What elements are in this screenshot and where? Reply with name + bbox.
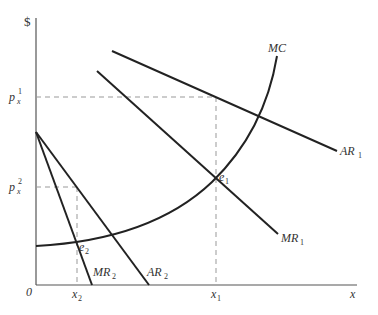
p2-label: p x 2 xyxy=(8,177,22,196)
svg-text:2: 2 xyxy=(78,294,82,303)
svg-text:1: 1 xyxy=(18,87,22,96)
mr2-label: MR 2 xyxy=(92,265,116,281)
svg-text:MR: MR xyxy=(92,265,111,279)
ar2-line xyxy=(36,132,149,285)
e1-label: e 1 xyxy=(219,170,229,186)
mr1-label: MR 1 xyxy=(280,231,304,247)
svg-text:x: x xyxy=(210,287,217,301)
svg-text:x: x xyxy=(16,187,21,196)
ar2-label: AR 2 xyxy=(146,265,168,281)
svg-text:1: 1 xyxy=(217,294,221,303)
x1-label: x 1 xyxy=(210,287,221,303)
svg-text:MR: MR xyxy=(280,231,299,245)
monopoly-price-discrimination-diagram: $ 0 x p x 1 p x 2 x 2 x 1 MC AR 1 MR 1 M… xyxy=(0,0,378,315)
mc-label: MC xyxy=(267,41,287,55)
svg-text:x: x xyxy=(71,287,78,301)
x-axis-label: x xyxy=(349,287,356,301)
svg-text:1: 1 xyxy=(358,151,362,160)
svg-text:AR: AR xyxy=(146,265,162,279)
e2-label: e 2 xyxy=(79,240,89,256)
svg-text:2: 2 xyxy=(112,272,116,281)
mc-curve xyxy=(36,56,277,246)
x2-label: x 2 xyxy=(71,287,82,303)
svg-text:p: p xyxy=(8,180,15,194)
svg-text:1: 1 xyxy=(225,177,229,186)
svg-text:1: 1 xyxy=(300,238,304,247)
svg-text:2: 2 xyxy=(85,247,89,256)
mr2-line xyxy=(36,132,92,285)
ar1-label: AR 1 xyxy=(339,144,362,160)
svg-text:2: 2 xyxy=(18,177,22,186)
svg-text:x: x xyxy=(16,97,21,106)
p1-label: p x 1 xyxy=(8,87,22,106)
svg-text:AR: AR xyxy=(339,144,355,158)
mr1-line xyxy=(97,71,278,234)
svg-text:p: p xyxy=(8,90,15,104)
ar1-line xyxy=(112,51,337,151)
origin-label: 0 xyxy=(26,285,32,299)
y-axis-label: $ xyxy=(24,14,31,29)
svg-text:2: 2 xyxy=(164,272,168,281)
